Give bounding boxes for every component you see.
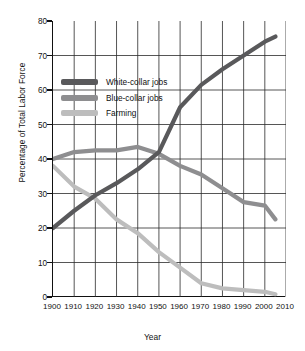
legend-item-blue-collar: Blue-collar jobs	[61, 92, 167, 104]
legend-label-blue-collar: Blue-collar jobs	[106, 93, 163, 103]
legend-swatch-farming	[61, 110, 98, 116]
y-tick-50: 50	[7, 120, 47, 129]
y-tick-70: 70	[7, 51, 47, 60]
legend-swatch-white-collar	[61, 79, 98, 85]
series-lines	[53, 21, 286, 297]
y-tick-80: 80	[7, 17, 47, 26]
legend-item-farming: Farming	[61, 107, 167, 119]
y-tick-0: 0	[7, 293, 47, 302]
legend-label-farming: Farming	[106, 108, 136, 118]
y-tick-60: 60	[7, 86, 47, 95]
y-tick-20: 20	[7, 224, 47, 233]
y-tick-10: 10	[7, 258, 47, 267]
x-tick-2010: 2010	[265, 302, 305, 311]
y-tick-40: 40	[7, 155, 47, 164]
plot-area	[52, 21, 285, 297]
legend-item-white-collar: White-collar jobs	[61, 76, 167, 88]
chart-legend: White-collar jobs Blue-collar jobs Farmi…	[61, 76, 167, 123]
series-line-farming	[53, 166, 275, 294]
legend-label-white-collar: White-collar jobs	[106, 77, 167, 87]
x-axis-title: Year	[0, 332, 305, 342]
series-line-blue-collar-jobs	[53, 147, 275, 219]
labor-force-line-chart: Percentage of Total Labor Force 01020304…	[0, 0, 305, 351]
y-tick-30: 30	[7, 189, 47, 198]
legend-swatch-blue-collar	[61, 95, 98, 101]
